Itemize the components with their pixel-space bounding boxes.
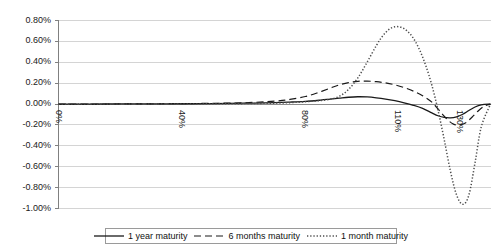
line-chart: 0.80%0.60%0.40%0.20%0.00%-0.20%-0.40%-0.…: [0, 0, 501, 251]
x-axis-label: 40%: [177, 110, 186, 128]
y-axis-label: -0.20%: [3, 120, 51, 129]
x-axis-label: 130%: [455, 110, 464, 133]
y-axis-label: -0.40%: [3, 141, 51, 150]
legend-label: 1 month maturity: [341, 232, 408, 241]
series-line: [59, 27, 491, 205]
legend-label: 6 months maturity: [228, 232, 300, 241]
legend-swatch-dashed-icon: [194, 231, 224, 241]
x-axis-label: 80%: [300, 110, 309, 128]
chart-legend: 1 year maturity6 months maturity1 month …: [105, 228, 397, 244]
legend-item[interactable]: 1 month maturity: [307, 231, 408, 241]
y-axis-label: 0.60%: [3, 36, 51, 45]
legend-item[interactable]: 1 year maturity: [94, 231, 188, 241]
legend-swatch-dotted-icon: [307, 231, 337, 241]
legend-label: 1 year maturity: [128, 232, 188, 241]
y-axis-label: 0.00%: [3, 99, 51, 108]
legend-swatch-solid-icon: [94, 231, 124, 241]
y-axis-label: 0.80%: [3, 16, 51, 25]
y-axis-label: 0.20%: [3, 78, 51, 87]
y-axis-label: -0.60%: [3, 162, 51, 171]
y-axis-label: -0.80%: [3, 183, 51, 192]
x-axis-label: 110%: [393, 110, 402, 132]
plot-area: [0, 0, 501, 251]
series-line: [59, 97, 491, 118]
y-axis-label: -1.00%: [3, 204, 51, 213]
legend-item[interactable]: 6 months maturity: [194, 231, 300, 241]
x-axis-label: 0%: [54, 110, 63, 123]
y-axis-label: 0.40%: [3, 57, 51, 66]
